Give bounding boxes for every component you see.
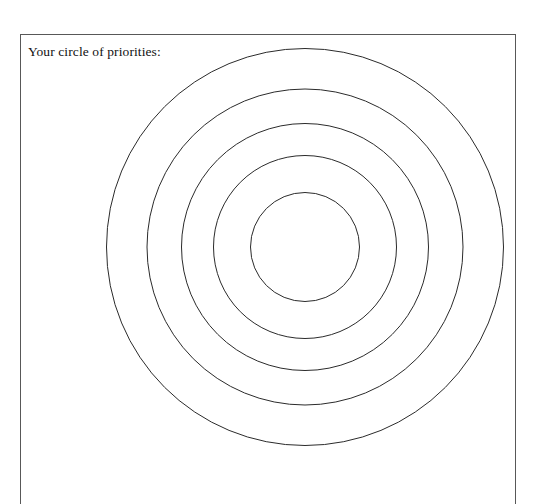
ring-inner-core	[251, 193, 360, 302]
ring-third	[182, 124, 429, 371]
ring-fourth	[214, 156, 397, 339]
rings-group	[107, 49, 504, 446]
ring-second	[147, 89, 463, 405]
ring-outer	[107, 49, 504, 446]
